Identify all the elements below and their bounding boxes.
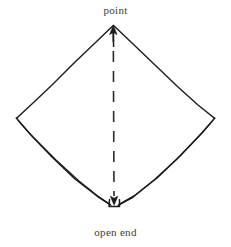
napkin-fold-diagram: point open end xyxy=(0,0,231,247)
diagram-canvas xyxy=(0,0,231,247)
lower-left-edge-inner xyxy=(18,121,111,206)
lower-right-edge-inner xyxy=(118,121,213,206)
lower-left-edge-outer xyxy=(16,118,110,205)
point-label: point xyxy=(0,5,231,16)
upper-right-edge xyxy=(114,26,215,119)
upper-right-edge-texture xyxy=(114,26,214,118)
center-fold-dashed-line xyxy=(113,31,114,196)
lower-right-edge-outer xyxy=(119,118,215,205)
open-end-label: open end xyxy=(0,227,231,238)
open-end-arrow-head xyxy=(110,196,117,205)
